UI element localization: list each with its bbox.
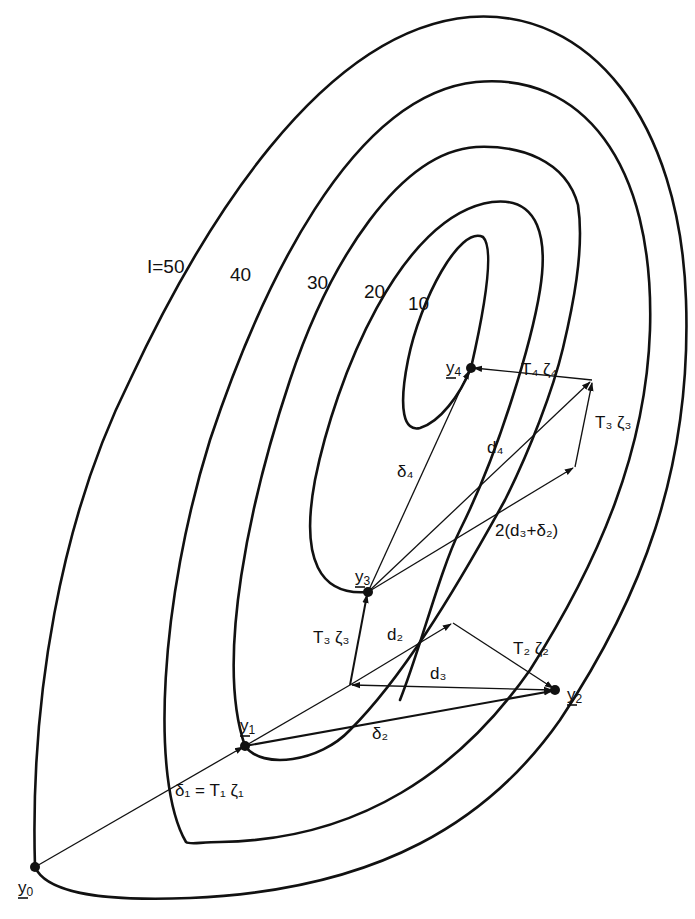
label-y3: y3 xyxy=(355,567,371,588)
vector-d3 xyxy=(352,685,552,690)
contour-label-30: 30 xyxy=(307,272,328,293)
vector-delta4 xyxy=(368,371,469,592)
iterate-points xyxy=(30,363,560,872)
label-delta2: δ₂ xyxy=(372,724,388,743)
label-T2zeta2: T₂ ζ₂ xyxy=(513,639,549,658)
point-y1 xyxy=(240,741,250,751)
label-T3zeta3-upper: T₃ ζ₃ xyxy=(595,413,631,432)
contour-label-10: 10 xyxy=(408,293,429,314)
vector-T3zeta3-upper xyxy=(575,383,592,467)
label-T4zeta4: T₄ ζ₄ xyxy=(521,360,558,379)
contour-10 xyxy=(403,236,488,429)
contour-20 xyxy=(310,201,543,700)
label-d2: d₂ xyxy=(387,625,403,644)
contour-label-40: 40 xyxy=(230,264,251,285)
contour-lines xyxy=(34,16,686,898)
point-y3 xyxy=(363,587,373,597)
contour-label-50: I=50 xyxy=(147,256,185,277)
contour-30 xyxy=(234,147,580,760)
vector-delta1 xyxy=(35,747,243,867)
point-y2 xyxy=(550,685,560,695)
contour-diagram: I=50 40 30 20 10 y0 y1 y2 y3 y4 δ₁ = T₁ … xyxy=(0,0,695,919)
search-vectors xyxy=(35,368,592,867)
vector-d4 xyxy=(368,382,590,592)
label-2-d3-delta2: 2(d₃+δ₂) xyxy=(495,521,558,540)
label-d3: d₃ xyxy=(430,664,446,683)
label-delta1: δ₁ = T₁ ζ₁ xyxy=(175,781,244,800)
contour-label-20: 20 xyxy=(364,281,385,302)
point-y0 xyxy=(30,862,40,872)
label-y4: y4 xyxy=(446,358,462,379)
label-d4: d₄ xyxy=(487,438,503,457)
label-y1: y1 xyxy=(240,716,256,737)
vector-T3zeta3-lower xyxy=(350,595,367,685)
point-y4 xyxy=(466,363,476,373)
label-T3zeta3-lower: T₃ ζ₃ xyxy=(313,628,349,647)
label-delta4: δ₄ xyxy=(397,462,413,481)
label-y0: y0 xyxy=(18,878,34,899)
